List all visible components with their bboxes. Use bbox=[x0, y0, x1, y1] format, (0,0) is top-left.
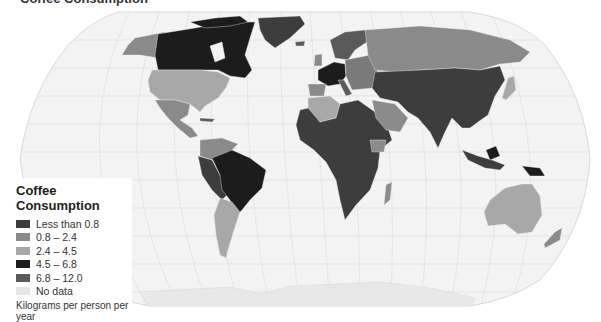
legend-item-less-than-0-8: Less than 0.8 bbox=[16, 217, 132, 231]
legend-item-2-4-to-4-5: 2.4 – 4.5 bbox=[16, 244, 132, 258]
legend-label: 2.4 – 4.5 bbox=[36, 245, 77, 257]
legend-item-4-5-to-6-8: 4.5 – 6.8 bbox=[16, 258, 132, 272]
legend-swatch bbox=[16, 260, 30, 268]
region-iberia bbox=[308, 84, 326, 96]
legend-label: 0.8 – 2.4 bbox=[36, 231, 77, 243]
region-iceland bbox=[295, 41, 305, 46]
legend-item-6-8-to-12-0: 6.8 – 12.0 bbox=[16, 271, 132, 285]
legend-label: Less than 0.8 bbox=[36, 218, 99, 230]
region-uk bbox=[314, 54, 322, 66]
legend-item-0-8-to-2-4: 0.8 – 2.4 bbox=[16, 231, 132, 245]
legend-label: No data bbox=[36, 285, 73, 297]
legend-label: 6.8 – 12.0 bbox=[36, 272, 83, 284]
legend-swatch bbox=[16, 274, 30, 282]
legend-swatch bbox=[16, 287, 30, 295]
legend-item-no-data: No data bbox=[16, 285, 132, 299]
legend-swatch bbox=[16, 247, 30, 255]
legend-label: 4.5 – 6.8 bbox=[36, 258, 77, 270]
legend: Coffee Consumption Less than 0.8 0.8 – 2… bbox=[0, 178, 132, 318]
legend-unit-note: Kilograms per person per year bbox=[16, 300, 134, 322]
legend-swatch bbox=[16, 233, 30, 241]
legend-title: Coffee Consumption bbox=[16, 183, 132, 213]
region-ethiopia bbox=[370, 140, 386, 152]
map-title: Coffee Consumption bbox=[20, 0, 148, 6]
legend-swatch bbox=[16, 220, 30, 228]
